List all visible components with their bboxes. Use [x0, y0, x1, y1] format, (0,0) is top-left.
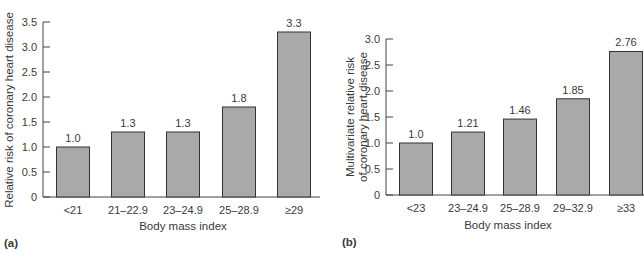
panel-label: (b) [342, 236, 357, 248]
figure: 00.51.01.52.02.53.03.51.0<211.321–22.91.… [0, 0, 644, 254]
bar [400, 143, 433, 195]
x-tick-label: 23–24.9 [163, 204, 203, 216]
bar-value-label: 1.0 [408, 128, 423, 140]
y-tick-label: 3.0 [22, 41, 37, 53]
bar [57, 147, 90, 197]
bar-chart-a: 00.51.01.52.02.53.03.51.0<211.321–22.91.… [3, 12, 320, 249]
x-tick-label: 25–28.9 [219, 204, 259, 216]
bar-value-label: 1.8 [231, 92, 246, 104]
x-tick-label: 23–24.9 [448, 202, 488, 214]
bar-value-label: 1.21 [457, 117, 478, 129]
x-tick-label: 25–28.9 [500, 202, 540, 214]
bar-value-label: 3.3 [286, 17, 301, 29]
x-tick-label: <21 [64, 204, 83, 216]
bar-value-label: 2.76 [615, 36, 636, 48]
bar [557, 99, 590, 195]
panel-label: (a) [4, 237, 18, 249]
x-axis-title: Body mass index [464, 219, 552, 231]
y-tick-label: 3.5 [22, 16, 37, 28]
x-tick-label: ≥29 [285, 204, 303, 216]
bar-value-label: 1.3 [120, 117, 135, 129]
bar [112, 132, 145, 197]
bar-value-label: 1.3 [175, 117, 190, 129]
bar [610, 51, 643, 195]
y-tick-label: 2.0 [22, 91, 37, 103]
bar [278, 32, 311, 197]
x-axis-title: Body mass index [139, 220, 227, 232]
y-tick-label: 1.5 [22, 116, 37, 128]
x-tick-label: <23 [407, 202, 426, 214]
y-tick-label: 1.0 [22, 141, 37, 153]
y-tick-label: 2.5 [22, 66, 37, 78]
x-tick-label: 21–22.9 [108, 204, 148, 216]
bar [223, 107, 256, 197]
bar [452, 132, 485, 195]
y-tick-label: 0 [31, 191, 37, 203]
y-axis-title: of coronary heart disease [357, 52, 369, 182]
x-tick-label: ≥33 [617, 202, 635, 214]
bar [504, 119, 537, 195]
bar-value-label: 1.46 [509, 104, 530, 116]
y-axis-title: Multivariate relative risk [344, 57, 356, 177]
bar-chart-b: 00.51.01.52.02.53.01.0<231.2123–24.91.46… [342, 33, 644, 248]
y-tick-label: 0.5 [22, 166, 37, 178]
bar-value-label: 1.85 [562, 84, 583, 96]
bar [167, 132, 200, 197]
y-tick-label: 3.0 [365, 33, 380, 45]
bar-value-label: 1.0 [65, 132, 80, 144]
y-axis-title: Relative risk of coronary heart disease [3, 12, 15, 208]
x-tick-label: 29–32.9 [553, 202, 593, 214]
y-tick-label: 0 [374, 189, 380, 201]
